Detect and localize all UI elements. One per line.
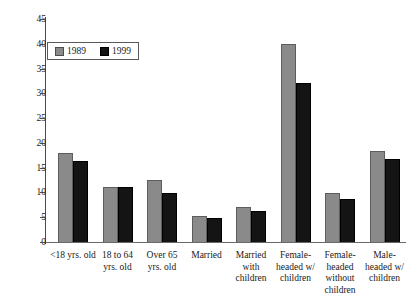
legend-label-1999: 1999 <box>112 46 131 56</box>
bar-group <box>236 19 266 242</box>
legend-label-1989: 1989 <box>67 46 86 56</box>
y-tick-mark <box>40 118 46 119</box>
bar-1989 <box>103 187 118 243</box>
bar-1999 <box>118 187 133 243</box>
bar-1989 <box>325 193 340 242</box>
bar-1989 <box>147 180 162 242</box>
y-tick-mark <box>40 217 46 218</box>
y-tick-mark <box>40 69 46 70</box>
bar-1989 <box>370 151 385 242</box>
legend-item-1999: 1999 <box>100 46 131 56</box>
bar-group <box>147 19 177 242</box>
legend-swatch-1989-icon <box>55 47 64 56</box>
bar-group <box>192 19 222 242</box>
x-axis-line <box>45 242 406 243</box>
y-axis-line <box>45 17 46 244</box>
bar-1999 <box>73 161 88 242</box>
bar-chart: 051015202530354045 <18 yrs. old18 to 64y… <box>0 0 414 308</box>
bar-1999 <box>162 193 177 242</box>
bar-1989 <box>192 216 207 242</box>
bar-1999 <box>340 199 355 242</box>
y-tick-mark <box>40 19 46 20</box>
y-tick-mark <box>40 192 46 193</box>
bar-1989 <box>58 153 73 242</box>
y-tick-mark <box>40 242 46 243</box>
y-tick-mark <box>40 168 46 169</box>
legend-swatch-1999-icon <box>100 47 109 56</box>
bar-1989 <box>281 44 296 242</box>
bar-1999 <box>251 211 266 242</box>
bar-group <box>370 19 400 242</box>
y-tick-mark <box>40 143 46 144</box>
bar-group <box>325 19 355 242</box>
y-tick-mark <box>40 44 46 45</box>
bar-1989 <box>236 207 251 242</box>
bar-1999 <box>207 218 222 242</box>
y-tick-mark <box>40 93 46 94</box>
bar-group <box>281 19 311 242</box>
bar-1999 <box>296 83 311 242</box>
category-label: Male-headed w/children <box>359 250 411 285</box>
bar-1999 <box>385 159 400 242</box>
chart-legend: 1989 1999 <box>47 42 139 60</box>
legend-item-1989: 1989 <box>55 46 86 56</box>
